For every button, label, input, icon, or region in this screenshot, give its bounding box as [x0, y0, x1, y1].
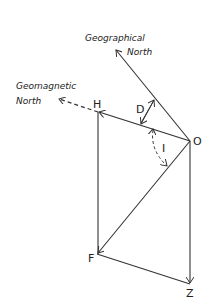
total-field-vector	[98, 141, 190, 253]
geomagnetic-label: Geomagnetic	[16, 81, 76, 91]
magnetic-field-diagram: Geographical North Geomagnetic North H D…	[0, 0, 216, 304]
geographical-north-label: North	[127, 47, 152, 57]
label-d: D	[136, 103, 144, 116]
geographical-label: Geographical	[85, 33, 145, 43]
label-f: F	[88, 252, 94, 265]
label-h: H	[93, 98, 101, 111]
label-o: O	[193, 135, 202, 148]
geographical-north-vector	[116, 50, 190, 141]
geomagnetic-north-label: North	[16, 96, 41, 106]
label-i: I	[162, 142, 165, 155]
line-f-z	[97, 254, 190, 284]
label-z: Z	[186, 287, 194, 300]
